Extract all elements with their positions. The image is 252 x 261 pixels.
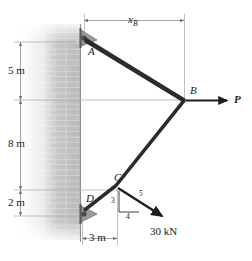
dimension-label-3m: 3 m [89, 232, 106, 243]
dimension-label-2m: 2 m [8, 197, 25, 208]
joint-label-C: C [114, 172, 121, 183]
dimension-label-5m: 5 m [8, 65, 25, 76]
dimension-label-xb-subscript: B [133, 19, 138, 28]
member-DCB [83, 99, 186, 212]
dimension-label-8m: 8 m [8, 138, 25, 149]
slope-label-vertical: 3 [111, 197, 115, 205]
joint-label-B: B [190, 85, 197, 96]
slope-label-hypotenuse: 5 [139, 190, 143, 198]
slope-label-horizontal: 4 [126, 213, 130, 221]
dimension-label-xb: xB [128, 14, 137, 28]
force-label-P: P [234, 94, 241, 105]
truss-members [83, 37, 186, 212]
masonry-wall [20, 24, 81, 242]
joint-label-A: A [88, 46, 95, 57]
statics-figure: 5 m 8 m 2 m xB 3 m A B C D P 30 kN 3 4 5 [0, 0, 252, 261]
joint-label-D: D [86, 193, 94, 204]
figure-canvas [0, 0, 252, 261]
member-AB [84, 37, 186, 103]
force-label-30kn: 30 kN [150, 226, 177, 237]
